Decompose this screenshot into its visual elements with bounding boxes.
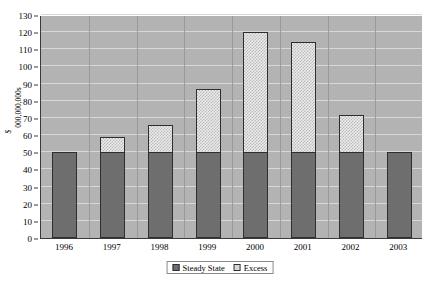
bar-2002[interactable] bbox=[339, 115, 364, 239]
bar-segment-excess bbox=[100, 137, 125, 152]
x-axis-labels: 19961997199819992000200120022003 bbox=[40, 242, 422, 256]
y-axis-tick-label: 90 bbox=[23, 80, 32, 90]
y-axis-tick-label: 110 bbox=[19, 45, 32, 55]
y-axis-tick-label: 30 bbox=[23, 183, 32, 193]
x-axis-label-1999: 1999 bbox=[198, 242, 216, 252]
legend-item-steady[interactable]: Steady State bbox=[173, 263, 225, 273]
category-separator bbox=[89, 16, 90, 238]
bar-2003[interactable] bbox=[387, 152, 412, 238]
bar-1999[interactable] bbox=[196, 89, 221, 238]
chart-legend: Steady StateExcess bbox=[167, 261, 274, 274]
bar-segment-excess bbox=[196, 89, 221, 152]
y-axis-tick bbox=[34, 118, 38, 119]
y-axis-tick-label: 120 bbox=[19, 28, 33, 38]
bar-segment-steady-state bbox=[148, 152, 173, 238]
bar-segment-steady-state bbox=[196, 152, 221, 238]
y-axis-tick bbox=[34, 50, 38, 51]
y-axis-tick bbox=[34, 84, 38, 85]
y-axis-tick-label: 20 bbox=[23, 200, 32, 210]
category-separator bbox=[280, 16, 281, 238]
x-axis-label-2000: 2000 bbox=[246, 242, 264, 252]
bar-segment-excess bbox=[339, 115, 364, 153]
y-axis-tick-label: 50 bbox=[23, 148, 32, 158]
x-axis-label-1996: 1996 bbox=[55, 242, 73, 252]
y-axis-tick bbox=[34, 239, 38, 240]
y-axis-tick bbox=[34, 136, 38, 137]
bar-segment-excess bbox=[243, 32, 268, 152]
gridline bbox=[41, 14, 422, 15]
category-separator bbox=[328, 16, 329, 238]
x-axis-label-2003: 2003 bbox=[389, 242, 407, 252]
bar-2000[interactable] bbox=[243, 32, 268, 238]
chart-title: FULLBOND CAPITAL SPENDING: bbox=[0, 0, 440, 3]
bar-segment-steady-state bbox=[52, 152, 77, 238]
bar-1997[interactable] bbox=[100, 137, 125, 238]
bar-segment-steady-state bbox=[100, 152, 125, 238]
x-axis-label-2002: 2002 bbox=[341, 242, 359, 252]
y-axis-tick bbox=[34, 170, 38, 171]
y-axis-tick-label: 130 bbox=[19, 11, 33, 21]
y-axis-labels: 0102030405060708090100110120130 bbox=[0, 16, 38, 239]
category-separator bbox=[184, 16, 185, 238]
x-axis-label-1998: 1998 bbox=[150, 242, 168, 252]
y-axis-tick bbox=[34, 67, 38, 68]
y-axis-tick bbox=[34, 221, 38, 222]
y-axis-tick-label: 80 bbox=[23, 97, 32, 107]
category-separator bbox=[375, 16, 376, 238]
chart-container: FULLBOND CAPITAL SPENDING: $ 000,000,000… bbox=[0, 0, 440, 283]
y-axis-tick bbox=[34, 187, 38, 188]
x-axis-label-1997: 1997 bbox=[103, 242, 121, 252]
plot-area bbox=[40, 16, 422, 239]
x-axis-label-2001: 2001 bbox=[294, 242, 312, 252]
category-separator bbox=[137, 16, 138, 238]
y-axis-tick-label: 0 bbox=[28, 234, 33, 244]
legend-item-excess[interactable]: Excess bbox=[234, 263, 268, 273]
y-axis-tick bbox=[34, 33, 38, 34]
legend-label: Steady State bbox=[183, 263, 225, 273]
category-separator bbox=[232, 16, 233, 238]
bar-segment-steady-state bbox=[243, 152, 268, 238]
y-axis-tick bbox=[34, 204, 38, 205]
legend-swatch-steady-icon bbox=[173, 264, 180, 271]
bar-1998[interactable] bbox=[148, 125, 173, 238]
bar-series bbox=[41, 16, 422, 238]
y-axis-tick bbox=[34, 101, 38, 102]
bar-2001[interactable] bbox=[291, 42, 316, 238]
bar-segment-steady-state bbox=[387, 152, 412, 238]
legend-label: Excess bbox=[244, 263, 268, 273]
y-axis-tick bbox=[34, 153, 38, 154]
bar-1996[interactable] bbox=[52, 152, 77, 238]
y-axis-tick-label: 10 bbox=[23, 217, 32, 227]
y-axis-tick-label: 60 bbox=[23, 131, 32, 141]
y-axis-tick-label: 40 bbox=[23, 165, 32, 175]
y-axis-tick-label: 100 bbox=[19, 62, 33, 72]
bar-segment-steady-state bbox=[339, 152, 364, 238]
bar-segment-steady-state bbox=[291, 152, 316, 238]
bar-segment-excess bbox=[148, 125, 173, 152]
legend-swatch-excess-icon bbox=[234, 264, 241, 271]
y-axis-tick-label: 70 bbox=[23, 114, 32, 124]
y-axis-tick bbox=[34, 16, 38, 17]
bar-segment-excess bbox=[291, 42, 316, 152]
